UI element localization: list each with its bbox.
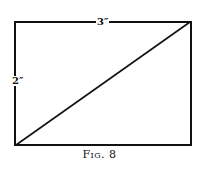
width-dimension-label: 3″: [96, 17, 109, 27]
caption-number: 8: [109, 148, 117, 161]
diagonal-line: [16, 22, 190, 145]
caption-prefix: Fig.: [82, 148, 105, 161]
figure-caption: Fig. 8: [0, 148, 199, 161]
height-dimension-label: 2″: [11, 76, 24, 86]
